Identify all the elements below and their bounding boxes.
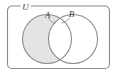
venn-diagram-figure: U A B	[0, 0, 118, 77]
shaded-region-a-minus-b	[0, 0, 118, 77]
venn-diagram-canvas: U A B	[0, 0, 118, 77]
set-label-a: A	[44, 10, 51, 20]
set-label-b: B	[69, 9, 75, 19]
